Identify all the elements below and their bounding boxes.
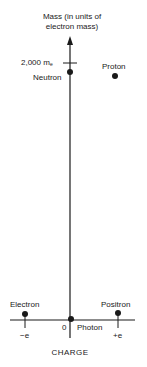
x-axis-label: CHARGE: [40, 348, 100, 357]
neutron-dot: [67, 69, 73, 75]
electron-label: Electron: [10, 300, 39, 309]
mass-charge-plot: [0, 0, 147, 367]
photon-dot: [68, 316, 74, 322]
charge-tick-pos-label: +e: [113, 331, 122, 340]
y-axis-label-line1: Mass (in units of: [32, 12, 112, 21]
positron-label: Positron: [101, 300, 130, 309]
y-axis-label-line2: electron mass): [32, 22, 112, 31]
mass-axis-arrow-icon: [67, 36, 73, 45]
charge-tick-neg-label: −e: [20, 331, 29, 340]
photon-label: Photon: [77, 323, 102, 332]
origin-label: 0: [62, 323, 66, 332]
mass-tick-label: 2,000 me: [21, 58, 53, 69]
neutron-label: Neutron: [33, 73, 61, 82]
electron-dot: [22, 311, 28, 317]
proton-label: Proton: [102, 62, 126, 71]
proton-dot: [112, 73, 118, 79]
positron-dot: [115, 310, 121, 316]
